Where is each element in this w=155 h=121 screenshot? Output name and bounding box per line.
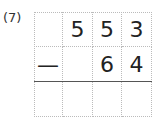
cell-r1-c3: 4 <box>122 47 152 82</box>
answer-cell-c3[interactable] <box>122 82 152 117</box>
cell-r0-c0 <box>34 12 63 47</box>
answer-cell-c2[interactable] <box>93 82 122 117</box>
cell-r0-c1: 5 <box>63 12 93 47</box>
answer-cell-c0[interactable] <box>34 82 63 117</box>
answer-line <box>34 81 152 82</box>
cell-r1-c0: — <box>34 47 63 82</box>
answer-cell-c1[interactable] <box>63 82 93 117</box>
cell-r0-c2: 5 <box>93 12 122 47</box>
cell-r0-c3: 3 <box>122 12 152 47</box>
cell-r1-c2: 6 <box>93 47 122 82</box>
problem-number: (7) <box>3 10 21 25</box>
cell-r1-c1 <box>63 47 93 82</box>
subtraction-grid: 5 5 3 — 6 4 <box>34 12 152 117</box>
